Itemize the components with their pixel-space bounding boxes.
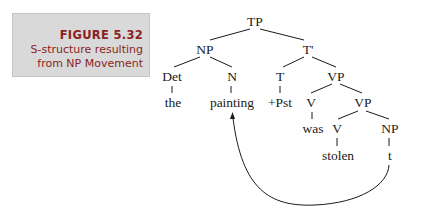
word-pst: +Pst: [268, 95, 292, 110]
node-tp: TP: [247, 14, 263, 29]
node-t: T: [276, 69, 285, 84]
word-painting: painting: [210, 95, 254, 110]
node-vp-top: VP: [327, 69, 344, 84]
word-the: the: [165, 95, 182, 110]
node-vp-lower: VP: [354, 95, 371, 110]
node-np-object: NP: [381, 121, 398, 136]
node-np-subject: NP: [196, 42, 213, 57]
node-trace: t: [388, 148, 392, 163]
node-det: Det: [162, 69, 182, 84]
syntax-tree: TP NP T' Det N T VP the painting +Pst V …: [0, 0, 429, 220]
node-v-aux: V: [306, 95, 316, 110]
arrowhead-icon: [230, 112, 235, 119]
word-stolen: stolen: [322, 148, 354, 163]
node-t-bar: T': [303, 42, 314, 57]
word-was: was: [303, 121, 324, 136]
node-v-main: V: [332, 121, 342, 136]
node-n: N: [227, 69, 237, 84]
